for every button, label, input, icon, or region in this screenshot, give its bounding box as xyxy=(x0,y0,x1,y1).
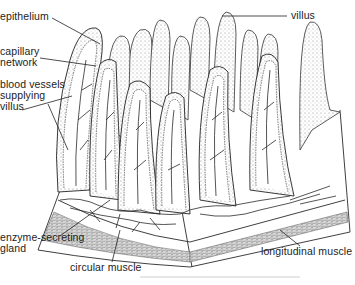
label-blood-vessels: blood vessels supplying villus xyxy=(0,79,65,112)
label-capillary-network: capillary network xyxy=(0,46,39,68)
label-circular-muscle: circular muscle xyxy=(70,262,142,273)
label-epithelium: epithelium xyxy=(0,11,49,22)
label-enzyme-gland: enzyme-secreting gland xyxy=(0,232,84,254)
villi-diagram: epithelium capillary network blood vesse… xyxy=(0,0,355,285)
figure-caption xyxy=(140,273,300,281)
label-villus: villus xyxy=(291,10,315,21)
label-longitudinal-muscle: longitudinal muscle xyxy=(261,246,352,257)
